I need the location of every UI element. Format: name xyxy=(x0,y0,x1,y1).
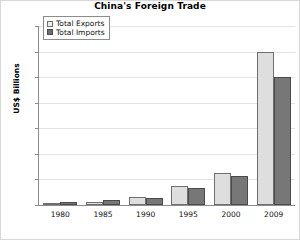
y-tickmark-400 xyxy=(35,154,39,155)
x-tick-label-1995: 1995 xyxy=(168,210,208,219)
chart-title: China's Foreign Trade xyxy=(0,1,300,11)
plot-area: 0200400600800100012001400 19801985199019… xyxy=(38,26,295,205)
legend-item-imports[interactable]: Total Imports xyxy=(47,29,105,37)
legend-label-imports: Total Imports xyxy=(56,29,105,37)
bar-1990-imports[interactable] xyxy=(146,198,163,205)
bar-1990-exports[interactable] xyxy=(129,197,146,205)
legend-swatch-imports-icon xyxy=(47,29,53,35)
chart-legend: Total ExportsTotal Imports xyxy=(43,16,110,40)
y-tickmark-800 xyxy=(35,103,39,104)
bar-group-2009 xyxy=(257,26,291,205)
x-tick-label-1990: 1990 xyxy=(126,210,166,219)
bar-group-1990 xyxy=(129,26,163,205)
bar-group-1985 xyxy=(86,26,120,205)
x-tick-label-2000: 2000 xyxy=(211,210,251,219)
bar-1985-exports[interactable] xyxy=(86,202,103,205)
bar-1985-imports[interactable] xyxy=(103,200,120,205)
bar-1995-imports[interactable] xyxy=(188,188,205,205)
bar-2000-imports[interactable] xyxy=(231,176,248,205)
x-tick-label-2009: 2009 xyxy=(254,210,294,219)
bar-1980-imports[interactable] xyxy=(60,202,77,205)
y-tickmark-1400 xyxy=(35,26,39,27)
bar-2009-imports[interactable] xyxy=(274,77,291,205)
legend-item-exports[interactable]: Total Exports xyxy=(47,20,105,28)
y-axis-label: US$ Billions xyxy=(12,49,21,129)
legend-label-exports: Total Exports xyxy=(56,20,104,28)
y-tickmark-0 xyxy=(35,205,39,206)
gridline-0 xyxy=(39,205,295,206)
bar-2009-exports[interactable] xyxy=(257,52,274,205)
y-tickmark-200 xyxy=(35,179,39,180)
y-tickmark-1200 xyxy=(35,52,39,53)
y-tickmark-1000 xyxy=(35,77,39,78)
bar-group-2000 xyxy=(214,26,248,205)
bar-2000-exports[interactable] xyxy=(214,173,231,205)
chart-container: China's Foreign Trade US$ Billions 02004… xyxy=(0,0,300,240)
bar-1995-exports[interactable] xyxy=(171,186,188,205)
legend-swatch-exports-icon xyxy=(47,21,53,27)
y-tickmark-600 xyxy=(35,128,39,129)
x-tick-label-1985: 1985 xyxy=(83,210,123,219)
x-tick-label-1980: 1980 xyxy=(40,210,80,219)
bar-1980-exports[interactable] xyxy=(43,203,60,205)
bar-group-1995 xyxy=(171,26,205,205)
bar-group-1980 xyxy=(43,26,77,205)
